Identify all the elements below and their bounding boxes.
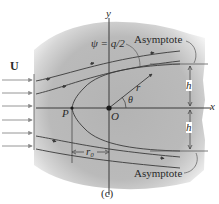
label-theta: θ (128, 95, 133, 105)
stagnation-point (70, 106, 73, 109)
label-asymptote-bottom: Asymptote (134, 168, 182, 179)
label-h-top: h (186, 80, 192, 91)
figure-caption: (c) (101, 188, 113, 199)
label-origin: O (111, 111, 119, 122)
uniform-flow-arrows (2, 80, 32, 146)
label-r: r (136, 82, 140, 93)
label-stagnation-point: P (62, 108, 69, 119)
label-U: U (10, 60, 19, 72)
label-psi: ψ = q/2 (91, 38, 125, 49)
label-r0: r₀ (86, 146, 94, 157)
label-h-bottom: h (186, 122, 192, 133)
flow-diagram: U y x ψ = q/2 Asymptote Asymptote r θ O … (0, 0, 219, 204)
label-x-axis: x (210, 101, 215, 112)
diagram-canvas (0, 0, 219, 204)
label-asymptote-top: Asymptote (134, 34, 182, 45)
label-y-axis: y (106, 8, 111, 19)
